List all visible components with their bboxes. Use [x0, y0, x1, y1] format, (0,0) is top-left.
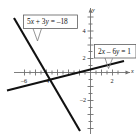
equation-label-1: 5x + 3y = –18: [25, 17, 70, 26]
line-2x-6y: [7, 61, 124, 91]
equation-label-2: 2x – 6y = 1: [96, 47, 133, 56]
y-tick-label--2: –2: [80, 97, 86, 103]
y-axis-name: y: [92, 7, 95, 13]
x-tick-label--6: –6: [21, 78, 27, 84]
graph-figure: –6 –4 2 4 2 –2 x y 5x + 3y = –18 2x – 6y…: [0, 0, 136, 137]
x-tick-label--4: –4: [43, 78, 49, 84]
x-axis-name: x: [131, 68, 134, 74]
leader-line-1: [33, 29, 42, 42]
y-tick-label-4: 4: [83, 28, 86, 34]
x-tick-label-2: 2: [111, 78, 114, 84]
y-tick-label-2: 2: [83, 55, 86, 61]
eq2-rhs: = 1: [119, 47, 131, 56]
x-axis-arrow: [126, 71, 131, 75]
eq1-operator: +: [34, 17, 42, 26]
eq1-rhs: = –18: [49, 17, 68, 26]
